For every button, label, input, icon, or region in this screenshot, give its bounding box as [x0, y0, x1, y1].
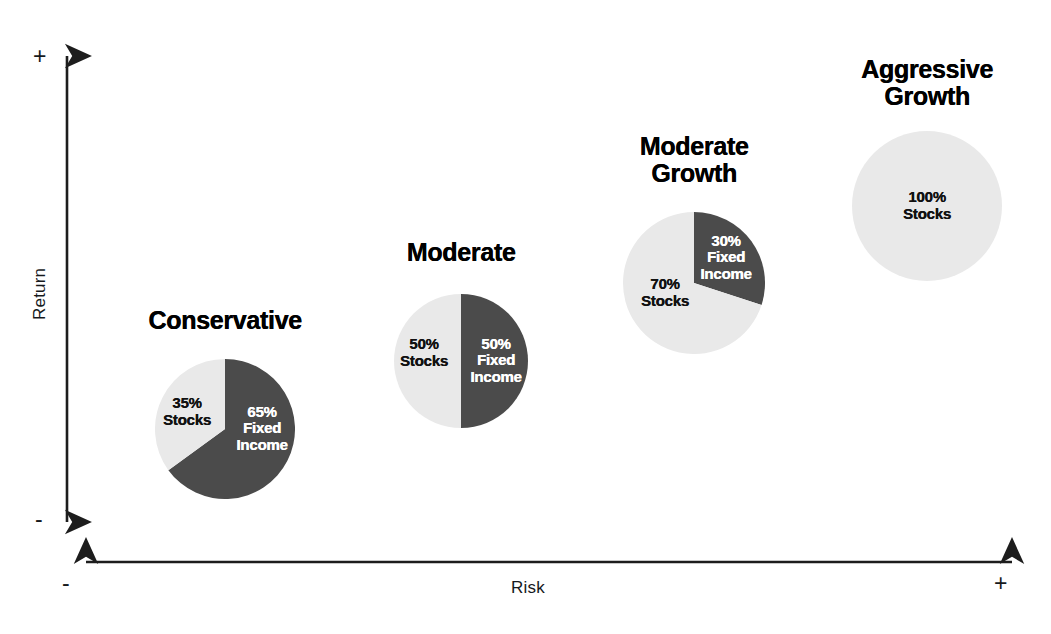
slice-label-conservative-stocks: 35% Stocks [132, 395, 242, 429]
portfolio-title-moderate: Moderate [321, 239, 601, 266]
x-axis-label: Risk [511, 578, 545, 598]
portfolio-title-conservative: Conservative [85, 307, 365, 334]
y-axis-negative-sign: - [35, 508, 43, 531]
portfolio-title-moderate-growth: Moderate Growth [554, 133, 834, 186]
portfolio-title-aggressive-growth: Aggressive Growth [787, 56, 1051, 109]
y-axis-label: Return [30, 268, 50, 320]
chart-canvas: + - Return - + Risk Conservative65% Fixe… [0, 0, 1051, 634]
y-axis-positive-sign: + [33, 45, 46, 68]
slice-label-aggressive-growth-stocks: 100% Stocks [872, 189, 982, 223]
slice-label-moderate-growth-stocks: 70% Stocks [610, 276, 720, 310]
x-axis-positive-sign: + [994, 572, 1007, 595]
slice-label-moderate-stocks: 50% Stocks [369, 336, 479, 370]
x-axis-negative-sign: - [62, 572, 70, 595]
